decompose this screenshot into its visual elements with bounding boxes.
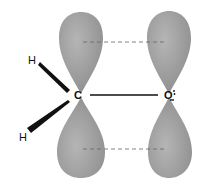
c-h1-wedge-bond (38, 62, 70, 93)
h2-label: H (19, 131, 27, 143)
pi-bond-diagram: H H C O (0, 0, 208, 191)
carbon-label: C (74, 89, 82, 101)
carbon-bottom-lobe (57, 97, 105, 178)
carbon-top-lobe (59, 12, 103, 94)
oxygen-top-lobe (147, 11, 191, 94)
oxygen-bottom-lobe (148, 97, 192, 178)
oxygen-label: O (164, 89, 173, 101)
h1-label: H (28, 54, 36, 66)
